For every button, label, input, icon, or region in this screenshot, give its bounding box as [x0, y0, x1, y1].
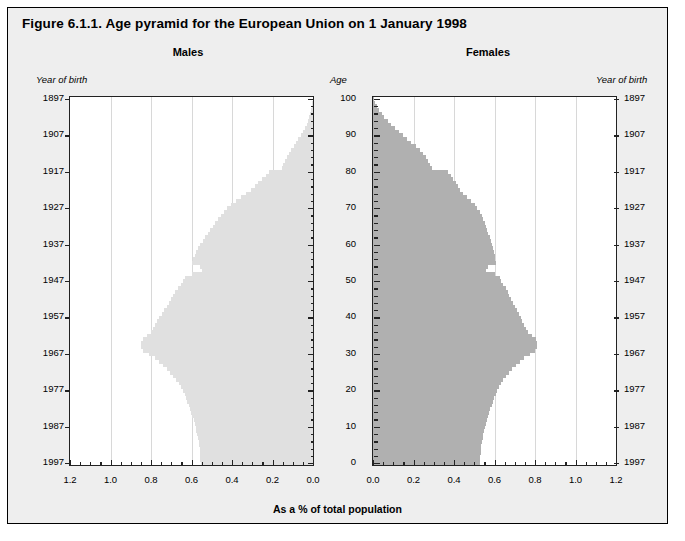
tick-male-axis: [311, 157, 315, 158]
tick-year-of-birth-left: [65, 281, 70, 282]
age-tick-label-100: 100: [330, 92, 356, 103]
bar-female-age-56: [373, 257, 495, 261]
males-plot-area: [69, 96, 314, 466]
bar-female-age-87: [373, 144, 416, 148]
females-plot-area: [372, 96, 617, 466]
bar-female-age-44: [373, 301, 513, 305]
bar-male-age-37: [153, 327, 313, 331]
bar-male-age-68: [221, 214, 313, 218]
bar-female-age-57: [373, 254, 495, 258]
bar-female-age-12: [373, 418, 487, 422]
bar-male-age-35: [147, 334, 313, 338]
tick-female-axis: [374, 354, 380, 355]
tick-female-axis: [374, 412, 378, 413]
bar-male-age-71: [231, 203, 313, 207]
bar-female-age-36: [373, 330, 528, 334]
tick-female-axis: [374, 106, 378, 107]
bar-male-age-76: [255, 184, 313, 188]
year-of-birth-tick-left-1977: 1977: [30, 383, 64, 394]
tick-x-male: [70, 460, 71, 466]
bar-female-age-99: [373, 101, 375, 105]
bar-female-age-38: [373, 323, 524, 327]
bar-female-age-71: [373, 203, 475, 207]
tick-male-axis: [311, 194, 315, 195]
tick-female-axis: [374, 347, 378, 348]
bar-male-age-22: [179, 381, 313, 385]
bar-male-age-44: [169, 301, 313, 305]
bar-male-age-75: [251, 188, 313, 192]
bar-male-age-16: [189, 403, 313, 407]
bar-male-age-51: [185, 276, 313, 280]
bar-female-age-37: [373, 327, 526, 331]
tick-year-of-birth-left: [65, 390, 70, 391]
bar-male-age-66: [215, 221, 313, 225]
tick-male-axis: [311, 412, 315, 413]
tick-female-axis: [374, 427, 380, 428]
tick-x-female: [505, 462, 506, 466]
bar-male-age-32: [141, 345, 313, 349]
bar-female-age-21: [373, 385, 499, 389]
year-of-birth-tick-left-1997: 1997: [30, 456, 64, 467]
bar-male-age-63: [208, 232, 313, 236]
tick-x-male: [181, 462, 182, 466]
bar-female-age-35: [373, 334, 532, 338]
bar-female-age-15: [373, 407, 490, 411]
tick-female-axis: [374, 383, 378, 384]
bar-male-age-53: [202, 268, 313, 272]
tick-male-axis: [311, 274, 315, 275]
bar-male-age-15: [190, 407, 313, 411]
bar-female-age-19: [373, 392, 496, 396]
bar-female-age-49: [373, 283, 503, 287]
bar-female-age-26: [373, 367, 512, 371]
tick-x-female: [474, 462, 475, 466]
bar-male-age-43: [167, 305, 313, 309]
bar-male-age-62: [205, 235, 313, 239]
gridline: [535, 97, 536, 465]
tick-year-of-birth-right: [614, 208, 619, 209]
tick-x-female: [495, 460, 496, 466]
tick-female-axis: [374, 201, 378, 202]
tick-year-of-birth-right: [614, 172, 619, 173]
bar-female-age-51: [373, 276, 500, 280]
tick-male-axis: [311, 288, 315, 289]
tick-female-axis: [374, 274, 378, 275]
bar-female-age-27: [373, 363, 516, 367]
bar-female-age-69: [373, 210, 480, 214]
tick-year-of-birth-left: [65, 135, 70, 136]
tick-year-of-birth-left: [65, 354, 70, 355]
bar-male-age-20: [183, 388, 313, 392]
bar-female-age-42: [373, 308, 517, 312]
x-tick-label-male-1.2: 1.2: [55, 474, 85, 485]
tick-female-axis: [374, 164, 378, 165]
age-tick-label-20: 20: [330, 383, 356, 394]
bar-female-age-77: [373, 181, 456, 185]
tick-x-female: [393, 462, 394, 466]
tick-female-axis: [374, 99, 380, 100]
tick-female-axis: [374, 325, 378, 326]
tick-female-axis: [374, 449, 378, 450]
tick-female-axis: [374, 113, 378, 114]
bar-male-age-7: [198, 436, 313, 440]
tick-year-of-birth-right: [614, 390, 619, 391]
tick-female-axis: [374, 215, 378, 216]
bar-female-age-68: [373, 214, 482, 218]
bar-male-age-87: [294, 144, 313, 148]
bar-male-age-24: [173, 374, 313, 378]
tick-male-axis: [311, 121, 315, 122]
x-axis-title: As a % of total population: [8, 503, 667, 515]
tick-female-axis: [374, 434, 378, 435]
age-tick-label-30: 30: [330, 347, 356, 358]
bar-male-age-55: [192, 261, 314, 265]
tick-x-female: [606, 462, 607, 466]
tick-female-axis: [374, 143, 378, 144]
tick-x-male: [80, 462, 81, 466]
bar-male-age-84: [287, 155, 313, 159]
tick-female-axis: [374, 172, 380, 173]
year-of-birth-tick-left-1927: 1927: [30, 201, 64, 212]
bar-female-age-3: [373, 450, 481, 454]
bar-male-age-21: [181, 385, 313, 389]
bar-male-age-27: [163, 363, 313, 367]
tick-female-axis: [374, 208, 380, 209]
tick-female-axis: [374, 419, 378, 420]
bar-female-age-4: [373, 447, 481, 451]
